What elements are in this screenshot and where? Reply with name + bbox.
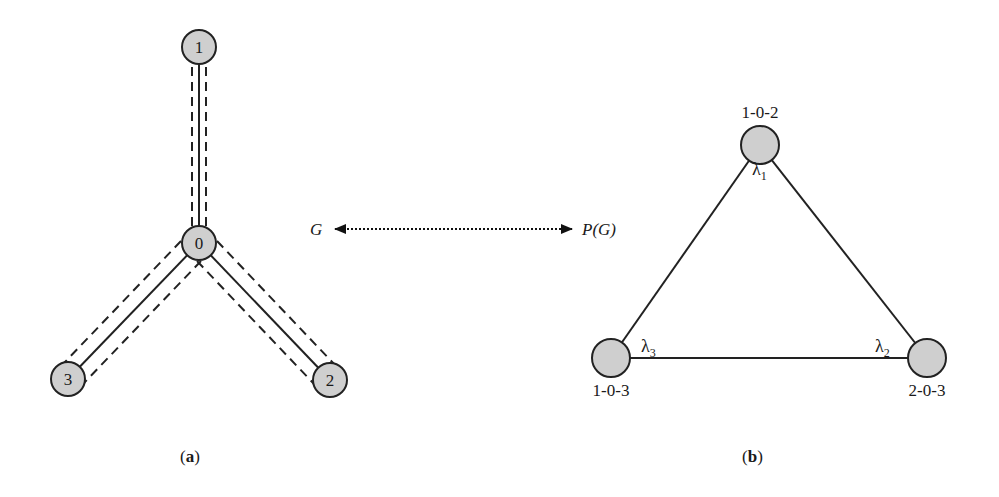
edge-0-3 [63, 241, 201, 384]
weight-lambda-2: λ2 [875, 336, 890, 360]
edge-103-102 [611, 145, 760, 358]
node-label: 0 [195, 234, 204, 253]
caption-b: (b) [742, 447, 763, 466]
graph-g: 1032 [51, 30, 347, 397]
graph-pg: 1-0-2λ12-0-3λ21-0-3λ3 [592, 103, 946, 400]
node-label: 2-0-3 [909, 381, 946, 400]
node-circle [592, 339, 630, 377]
label-g: G [310, 220, 322, 239]
caption-a: (a) [180, 447, 200, 466]
node-label: 2 [326, 371, 335, 390]
edge-0-1 [192, 47, 206, 243]
mapping-arrow: G P(G) [310, 220, 616, 239]
node-label: 1-0-3 [593, 381, 630, 400]
edge-102-203 [760, 145, 927, 358]
node-1-0-2: 1-0-2λ1 [741, 103, 779, 183]
node-1: 1 [182, 30, 216, 64]
node-label: 1 [195, 38, 204, 57]
node-label: 3 [64, 370, 73, 389]
node-2-0-3: 2-0-3λ2 [875, 336, 946, 400]
node-1-0-3: 1-0-3λ3 [592, 336, 656, 400]
figure-canvas: 1032 G P(G) 1-0-2λ12-0-3λ21-0-3λ3 (a) (b… [0, 0, 999, 497]
node-0: 0 [182, 226, 216, 260]
edge-0-2 [197, 241, 335, 385]
node-label: 1-0-2 [742, 103, 779, 122]
weight-lambda-3: λ3 [641, 336, 656, 360]
node-circle [908, 339, 946, 377]
node-3: 3 [51, 362, 85, 396]
node-2: 2 [313, 363, 347, 397]
label-pg: P(G) [581, 220, 616, 239]
edges-b [611, 145, 927, 358]
